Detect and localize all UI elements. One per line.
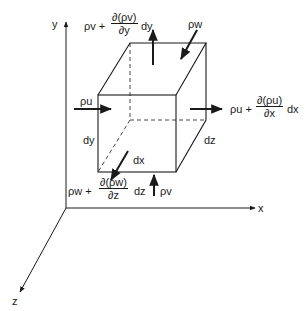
x-axis-label: x <box>258 202 264 214</box>
flux-out-z-suffix: dz <box>134 185 146 197</box>
y-axis-label: y <box>52 18 58 30</box>
z-axis-label: z <box>12 295 18 307</box>
flux-out-x-numerator: ∂(ρu) <box>256 94 283 107</box>
flux-out-z-denominator: ∂z <box>107 189 120 201</box>
dz-label: dz <box>204 134 216 146</box>
flux-in-y-label: ρv <box>160 185 172 197</box>
flux-in-x-label: ρu <box>80 95 92 107</box>
flux-out-z-numerator: ∂(ρw) <box>99 176 128 189</box>
flux-out-x-suffix: dx <box>287 103 299 115</box>
flux-in-z-label: ρw <box>188 18 202 30</box>
diagram-canvas <box>0 0 307 311</box>
flux-out-x-prefix: ρu + <box>230 103 252 115</box>
flux-out-y-fraction: ∂(ρv) ∂y <box>111 11 138 36</box>
flux-out-z-fraction: ∂(ρw) ∂z <box>99 176 128 201</box>
arrow-in-z <box>181 30 197 59</box>
dy-label: dy <box>83 134 95 146</box>
flux-out-x-denominator: ∂x <box>263 107 276 119</box>
flux-arrows <box>74 30 222 196</box>
dx-label: dx <box>133 154 145 166</box>
flux-out-y-denominator: ∂y <box>118 24 131 36</box>
flux-out-x-fraction: ∂(ρu) ∂x <box>256 94 283 119</box>
flux-out-y-numerator: ∂(ρv) <box>111 11 138 24</box>
z-axis <box>20 208 66 292</box>
flux-out-y-suffix: dy <box>141 20 153 32</box>
cube-right-face <box>176 43 206 172</box>
flux-out-z-prefix: ρw + <box>68 185 92 197</box>
flux-out-y-prefix: ρv + <box>84 20 105 32</box>
